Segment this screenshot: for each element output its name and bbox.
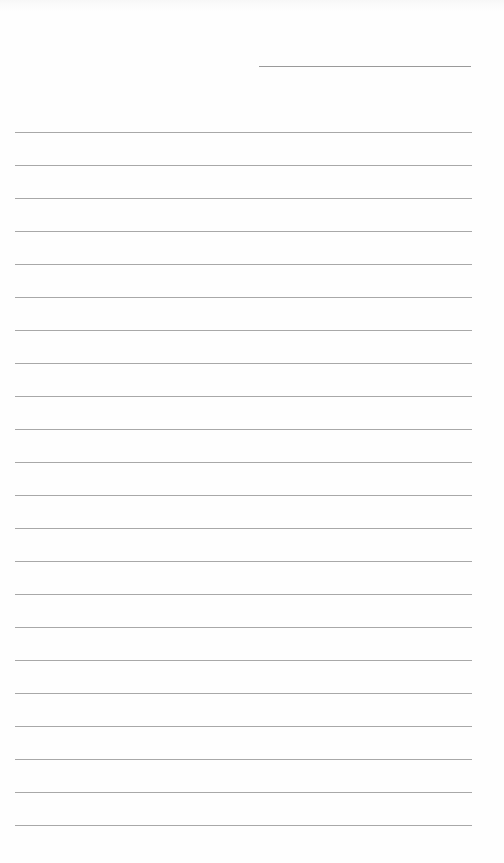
ruled-line: [15, 561, 472, 562]
ruled-line: [15, 825, 472, 826]
ruled-line: [15, 759, 472, 760]
ruled-line: [15, 462, 472, 463]
ruled-line: [15, 495, 472, 496]
ruled-line: [15, 363, 472, 364]
ruled-line: [15, 660, 472, 661]
ruled-line: [15, 792, 472, 793]
ruled-line: [15, 264, 472, 265]
ruled-line: [15, 198, 472, 199]
ruled-line: [15, 330, 472, 331]
ruled-line: [15, 297, 472, 298]
ruled-line: [15, 726, 472, 727]
header-name-line: [259, 66, 471, 67]
ruled-line: [15, 693, 472, 694]
lined-paper-page: [0, 0, 504, 863]
ruled-line: [15, 132, 472, 133]
ruled-line: [15, 429, 472, 430]
ruled-line: [15, 165, 472, 166]
top-edge-bleed-through: [0, 0, 504, 12]
ruled-line: [15, 396, 472, 397]
ruled-line: [15, 627, 472, 628]
ruled-line: [15, 231, 472, 232]
ruled-line: [15, 594, 472, 595]
ruled-line: [15, 528, 472, 529]
